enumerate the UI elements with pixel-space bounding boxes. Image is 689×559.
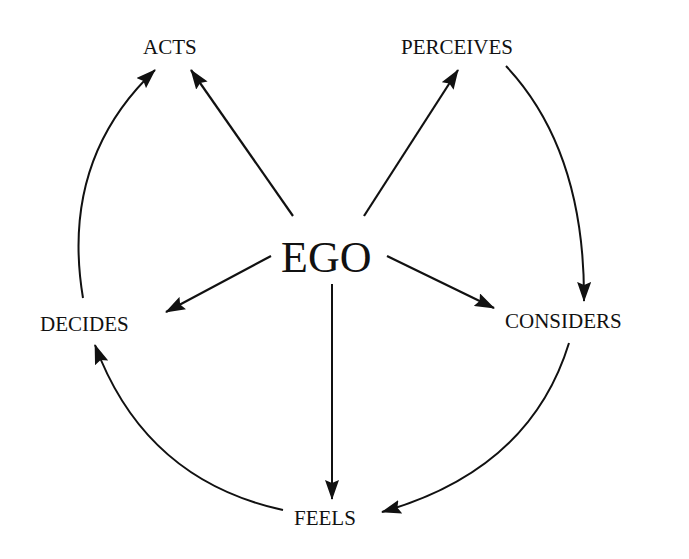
node-perceives: PERCEIVES: [401, 37, 513, 58]
edge-perceives-to-considers: [506, 66, 584, 301]
node-ego-center: EGO: [281, 236, 371, 280]
edge-feels-to-decides: [95, 345, 283, 510]
node-decides: DECIDES: [40, 314, 129, 335]
node-considers: CONSIDERS: [505, 311, 622, 332]
edge-decides-to-acts: [79, 70, 155, 298]
edge-considers-to-feels: [382, 343, 569, 512]
edge-ego-to-acts: [191, 70, 293, 216]
edge-ego-to-perceives: [364, 70, 458, 216]
edge-ego-to-considers: [387, 256, 494, 308]
node-acts: ACTS: [143, 37, 197, 58]
node-feels: FEELS: [294, 508, 356, 529]
edge-ego-to-decides: [166, 256, 271, 312]
